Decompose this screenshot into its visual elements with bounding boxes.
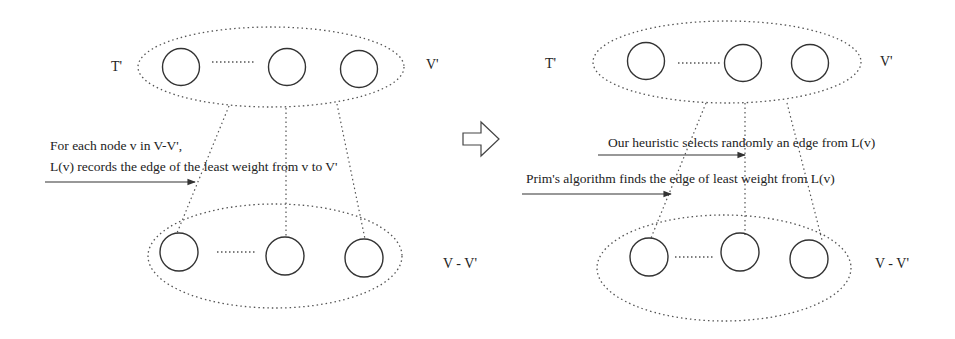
left-bottom-set-ellipse: [148, 204, 402, 308]
left-panel: T' V' For each node v in V-V', L(v) reco…: [45, 27, 477, 308]
right-v-minus-v-prime-label: V - V': [875, 256, 909, 271]
right-hollow-arrow-icon: [463, 122, 499, 156]
left-caption-line1: For each node v in V-V',: [50, 138, 182, 153]
left-top-set: T' V': [111, 27, 439, 107]
left-v-minus-v-prime-label: V - V': [443, 256, 477, 271]
right-panel: T' V' Our heuristic selects randomly an …: [522, 21, 909, 321]
node-circle: [721, 233, 759, 271]
node-circle: [266, 237, 304, 275]
node-circle: [269, 49, 306, 86]
node-circle: [790, 240, 828, 278]
node-circle: [341, 51, 378, 88]
left-top-set-ellipse: [138, 27, 404, 107]
left-v-prime-label: V': [426, 57, 439, 72]
right-top-set: T' V': [545, 21, 893, 103]
right-t-prime-label: T': [545, 56, 556, 71]
heuristic-caption: Our heuristic selects randomly an edge f…: [608, 135, 875, 150]
right-bottom-set: V - V': [597, 215, 909, 321]
node-circle: [630, 238, 668, 276]
right-top-set-ellipse: [593, 21, 861, 103]
left-t-prime-label: T': [111, 59, 122, 74]
node-circle: [725, 45, 762, 82]
prim-caption: Prim's algorithm finds the edge of least…: [526, 171, 835, 186]
right-v-prime-label: V': [880, 54, 893, 69]
right-bottom-set-ellipse: [597, 215, 851, 321]
left-bottom-set: V - V': [148, 204, 477, 308]
prim-vs-heuristic-diagram: T' V' For each node v in V-V', L(v) reco…: [0, 0, 955, 339]
node-circle: [160, 233, 198, 271]
node-circle: [628, 43, 665, 80]
left-caption-line2: L(v) records the edge of the least weigh…: [50, 159, 337, 174]
node-circle: [792, 45, 829, 82]
node-circle: [345, 239, 383, 277]
node-circle: [163, 49, 200, 86]
